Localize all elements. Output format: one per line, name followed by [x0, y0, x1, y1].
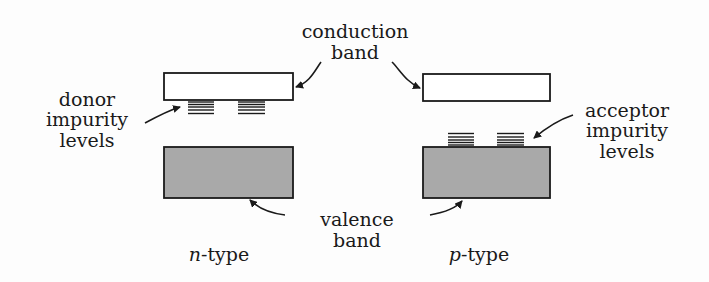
conduction-band-label-1: conduction	[302, 20, 409, 42]
p-valence-band	[423, 147, 550, 198]
arrow-valence-to-n	[250, 200, 285, 215]
acceptor-label-1: acceptor	[585, 99, 670, 121]
p-type-label: p-type	[449, 243, 509, 265]
valence-band-label-1: valence	[319, 208, 394, 230]
valence-band-label-2: band	[333, 229, 381, 251]
n-valence-band	[164, 147, 293, 198]
acceptor-label-2: impurity	[586, 119, 668, 141]
donor-label-3: levels	[59, 129, 114, 151]
acceptor-label-3: levels	[599, 140, 654, 162]
donor-label-1: donor	[59, 88, 116, 110]
band-diagram: conduction band donor impurity levels ac…	[0, 0, 709, 282]
diagram-canvas: conduction band donor impurity levels ac…	[0, 0, 709, 282]
arrow-donor	[145, 107, 180, 123]
n-conduction-band	[164, 73, 293, 100]
arrow-valence-to-p	[430, 201, 462, 215]
n-type-label: n-type	[189, 243, 249, 265]
conduction-band-label-2: band	[331, 41, 379, 63]
acceptor-impurity-levels	[448, 134, 524, 146]
donor-impurity-levels	[188, 102, 265, 114]
arrow-conduction-to-n	[296, 62, 321, 87]
donor-label-2: impurity	[46, 108, 128, 130]
p-conduction-band	[423, 74, 550, 101]
arrow-conduction-to-p	[392, 62, 420, 88]
arrow-acceptor	[534, 115, 573, 138]
